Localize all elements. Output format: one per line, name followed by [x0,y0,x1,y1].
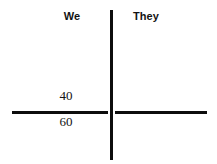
comparison-diagram: We They 40 60 [0,0,217,164]
value-above-rule: 40 [42,88,90,104]
vertical-divider-line [110,10,113,160]
column-header-they: They [116,10,176,22]
value-below-rule: 60 [42,114,90,130]
column-header-we: We [42,10,102,22]
horizontal-rule-right-segment [115,111,207,114]
